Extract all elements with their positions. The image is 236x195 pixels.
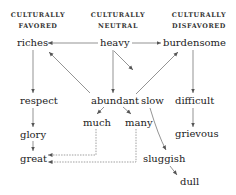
arrow-abundant-many bbox=[123, 107, 131, 114]
arrow-slow-burdensome bbox=[136, 52, 178, 94]
arrow-abundant-much bbox=[97, 107, 104, 114]
semantic-shift-diagram: CULTURALLY FAVORED CULTURALLY NEUTRAL CU… bbox=[0, 0, 236, 195]
arrows-layer bbox=[0, 0, 236, 195]
arrow-many-great bbox=[48, 129, 136, 162]
arrow-abundant-riches bbox=[49, 52, 90, 93]
arrow-slow-sluggish bbox=[150, 108, 166, 150]
arrow-heavy-diagonal bbox=[114, 51, 133, 70]
arrow-much-great bbox=[48, 129, 96, 155]
arrow-sluggish-dull bbox=[170, 166, 177, 175]
